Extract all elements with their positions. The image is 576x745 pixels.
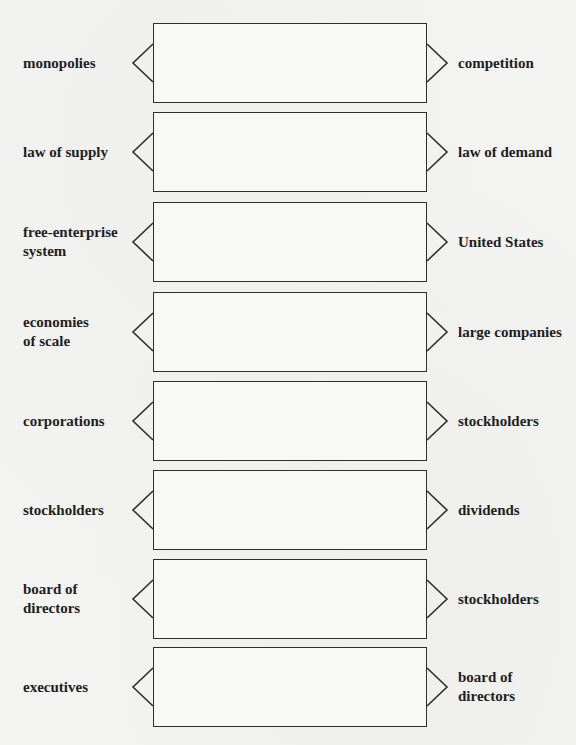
answer-box[interactable] bbox=[153, 112, 427, 192]
left-term: economies of scale bbox=[23, 292, 128, 372]
organizer-row-1: monopolies competition bbox=[0, 23, 576, 103]
right-arrow-icon bbox=[426, 313, 448, 351]
answer-box[interactable] bbox=[153, 470, 427, 550]
right-term: stockholders bbox=[458, 381, 573, 461]
left-arrow-icon bbox=[132, 313, 154, 351]
answer-box[interactable] bbox=[153, 559, 427, 639]
right-term: large companies bbox=[458, 292, 573, 372]
right-arrow-icon bbox=[426, 402, 448, 440]
right-arrow-icon bbox=[426, 44, 448, 82]
organizer-row-6: stockholders dividends bbox=[0, 470, 576, 550]
left-arrow-icon bbox=[132, 133, 154, 171]
left-arrow-icon bbox=[132, 668, 154, 706]
answer-box[interactable] bbox=[153, 23, 427, 103]
left-arrow-icon bbox=[132, 223, 154, 261]
left-arrow-icon bbox=[132, 580, 154, 618]
left-arrow-icon bbox=[132, 44, 154, 82]
right-arrow-icon bbox=[426, 580, 448, 618]
right-term: competition bbox=[458, 23, 573, 103]
organizer-row-3: free-enterprise system United States bbox=[0, 202, 576, 282]
left-term: monopolies bbox=[23, 23, 128, 103]
left-arrow-icon bbox=[132, 491, 154, 529]
left-term: law of supply bbox=[23, 112, 128, 192]
left-term: corporations bbox=[23, 381, 128, 461]
organizer-row-8: executives board of directors bbox=[0, 647, 576, 727]
answer-box[interactable] bbox=[153, 647, 427, 727]
answer-box[interactable] bbox=[153, 292, 427, 372]
right-arrow-icon bbox=[426, 491, 448, 529]
right-arrow-icon bbox=[426, 223, 448, 261]
organizer-row-5: corporations stockholders bbox=[0, 381, 576, 461]
left-term: executives bbox=[23, 647, 128, 727]
right-term: dividends bbox=[458, 470, 573, 550]
right-arrow-icon bbox=[426, 133, 448, 171]
left-term: free-enterprise system bbox=[23, 202, 128, 282]
organizer-row-4: economies of scale large companies bbox=[0, 292, 576, 372]
organizer-row-7: board of directors stockholders bbox=[0, 559, 576, 639]
right-term: board of directors bbox=[458, 647, 573, 727]
right-term: law of demand bbox=[458, 112, 573, 192]
graphic-organizer: monopolies competition law of supply law… bbox=[0, 0, 576, 745]
organizer-row-2: law of supply law of demand bbox=[0, 112, 576, 192]
right-term: stockholders bbox=[458, 559, 573, 639]
right-term: United States bbox=[458, 202, 573, 282]
left-arrow-icon bbox=[132, 402, 154, 440]
answer-box[interactable] bbox=[153, 202, 427, 282]
left-term: board of directors bbox=[23, 559, 128, 639]
answer-box[interactable] bbox=[153, 381, 427, 461]
right-arrow-icon bbox=[426, 668, 448, 706]
left-term: stockholders bbox=[23, 470, 128, 550]
